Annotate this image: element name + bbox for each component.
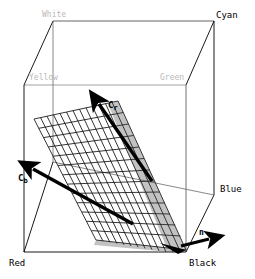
figure-canvas bbox=[0, 0, 255, 279]
vector-label-cr: Cr bbox=[108, 100, 118, 113]
vector-label-n: n bbox=[199, 228, 204, 238]
vertex-label-black: Black bbox=[189, 258, 216, 268]
vector-label-cr-subscript: r bbox=[113, 104, 117, 112]
vector-label-cb: Cb bbox=[18, 173, 28, 186]
vertex-label-green: Green bbox=[160, 73, 184, 83]
n-vector-arrow bbox=[181, 239, 209, 246]
vertex-label-blue: Blue bbox=[220, 184, 242, 194]
rgb-colour-cube-figure: White Cyan Yellow Green Blue Red Black C… bbox=[0, 0, 255, 279]
cr-vector-arrow bbox=[99, 104, 152, 181]
vertex-label-cyan: Cyan bbox=[216, 10, 238, 20]
vertex-label-white: White bbox=[42, 10, 66, 20]
vertex-label-yellow: Yellow bbox=[29, 73, 58, 83]
vector-label-cb-subscript: b bbox=[23, 177, 27, 185]
vertex-label-red: Red bbox=[9, 258, 25, 268]
